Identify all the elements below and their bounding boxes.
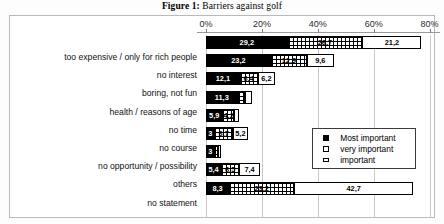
bar-segment: 42,7 — [294, 182, 413, 195]
x-tick-label-40: 40% — [309, 19, 327, 29]
x-tick-mark-80 — [430, 29, 431, 33]
bar-value-label: 3 — [208, 147, 212, 156]
bar-row: 29,226,721,2 — [197, 36, 437, 49]
bar-value-label: 6,2 — [261, 74, 271, 83]
x-tick-mark-60 — [374, 29, 375, 33]
category-label: boring, not fun — [142, 88, 197, 98]
category-label: no opportunity / possibility — [98, 161, 197, 171]
bar-segment: 8,3 — [206, 182, 229, 195]
bar-value-label: 12,9 — [282, 56, 296, 65]
bar-segment: 5,9 — [206, 109, 222, 122]
bar-segment: 21,2 — [362, 36, 421, 49]
dotted-white-square-icon — [318, 146, 334, 152]
x-tick-label-80: 80% — [421, 19, 439, 29]
category-label: no time — [169, 125, 197, 135]
legend-swatch — [323, 158, 329, 162]
bar-segment: 12,1 — [206, 72, 240, 85]
category-label: too expensive / only for rich people — [64, 52, 197, 62]
bar-segment: 6,4 — [240, 72, 258, 85]
bar-value-label: 3 — [208, 129, 212, 138]
bar-segment: 6,5 — [221, 163, 239, 176]
x-axis-tick-labels: 0%20%40%60%80% — [197, 19, 442, 33]
bar-segment: 5,4 — [206, 163, 221, 176]
bar-value-label: 23,2 — [231, 56, 245, 65]
bar-segment — [218, 145, 221, 158]
filled-black-square-icon — [318, 135, 334, 141]
bar-segment: 5,2 — [233, 127, 248, 140]
bar-value-label: 21,2 — [385, 38, 399, 47]
x-tick-mark-0 — [206, 29, 207, 33]
x-tick-mark-40 — [318, 29, 319, 33]
bar-rows: 29,226,721,223,212,99,612,16,46,211,35,9… — [197, 35, 437, 217]
bar-value-label: 8,3 — [212, 184, 222, 193]
bar-segment: 23,2 — [229, 182, 294, 195]
category-label: no statement — [147, 198, 197, 208]
bar-row: 5,94,2 — [197, 109, 437, 122]
legend-item: very important — [318, 143, 409, 154]
figure-caption-label: Figure 1: — [162, 1, 200, 11]
legend-label: Most important — [340, 133, 395, 143]
category-labels: too expensive / only for rich peopleno i… — [22, 50, 197, 224]
figure-caption: Figure 1: Barriers against golf — [0, 1, 444, 11]
bar-segment: 4,2 — [222, 109, 234, 122]
bar-row: 12,16,46,2 — [197, 72, 437, 85]
bar-value-label: 7,4 — [244, 165, 254, 174]
bar-value-label: 23,2 — [254, 184, 268, 193]
legend-label: important — [340, 155, 375, 165]
bar-value-label: 6,5 — [225, 165, 235, 174]
x-tick-label-60: 60% — [365, 19, 383, 29]
legend-item: important — [318, 154, 409, 165]
chart-legend: Most importantvery importantimportant — [312, 128, 416, 169]
bar-value-label: 29,2 — [240, 38, 254, 47]
x-axis-line — [197, 32, 440, 33]
plot-area: 29,226,721,223,212,99,612,16,46,211,35,9… — [197, 35, 437, 217]
bar-segment: 9,6 — [307, 54, 334, 67]
bar-segment: 3 — [206, 145, 214, 158]
bar-row: 23,212,99,6 — [197, 54, 437, 67]
bar-row: 11,3 — [197, 91, 437, 104]
bar-row: 8,323,242,7 — [197, 182, 437, 195]
white-rectangle-icon — [318, 158, 334, 162]
category-label: others — [173, 179, 197, 189]
bar-segment: 26,7 — [288, 36, 363, 49]
bar-value-label: 9,6 — [315, 56, 325, 65]
bar-value-label: 26,7 — [318, 38, 332, 47]
x-tick-label-20: 20% — [253, 19, 271, 29]
figure-container: Figure 1: Barriers against golf 0%20%40%… — [0, 0, 444, 224]
bar-value-label: 4,2 — [223, 111, 233, 120]
legend-item: Most important — [318, 132, 409, 143]
bar-segment: 6,2 — [258, 72, 275, 85]
bar-segment — [234, 109, 239, 122]
x-tick-mark-20 — [262, 29, 263, 33]
bar-segment: 6,7 — [214, 127, 233, 140]
bar-value-label: 6,4 — [244, 74, 254, 83]
bar-value-label: 5,4 — [208, 165, 218, 174]
category-label: health / reasons of age — [110, 107, 197, 117]
bar-value-label: 6,7 — [219, 129, 229, 138]
bar-segment: 3 — [206, 127, 214, 140]
bar-value-label: 11,3 — [215, 93, 229, 102]
legend-label: very important — [340, 144, 393, 154]
bar-segment: 7,4 — [239, 163, 260, 176]
bar-value-label: 5,2 — [235, 129, 245, 138]
chart-frame: 0%20%40%60%80% too expensive / only for … — [9, 15, 435, 218]
bar-value-label: 5,9 — [209, 111, 219, 120]
category-label: no course — [159, 143, 197, 153]
figure-caption-text: Barriers against golf — [200, 1, 282, 11]
category-label: no interest — [157, 70, 197, 80]
x-tick-label-0: 0% — [199, 19, 212, 29]
bar-segment: 23,2 — [206, 54, 271, 67]
legend-swatch — [323, 146, 329, 152]
legend-swatch — [323, 135, 329, 141]
bar-segment: 29,2 — [206, 36, 288, 49]
bar-segment — [238, 91, 245, 104]
bar-value-label: 42,7 — [347, 184, 361, 193]
bar-segment: 11,3 — [206, 91, 238, 104]
bar-value-label: 12,1 — [216, 74, 230, 83]
bar-segment: 12,9 — [271, 54, 307, 67]
bar-segment — [245, 91, 252, 104]
